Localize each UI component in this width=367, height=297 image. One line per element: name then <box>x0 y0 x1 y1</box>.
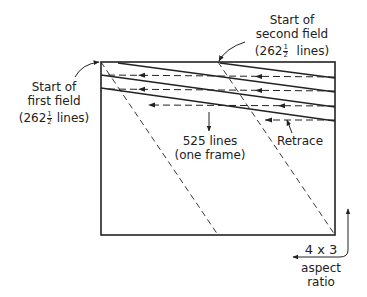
scan-line <box>101 88 335 121</box>
first-field-pointer <box>75 62 99 77</box>
retrace-pointer <box>287 120 292 133</box>
scan-line <box>118 63 335 92</box>
fraction-half: 12 <box>47 111 51 126</box>
second-field-count: (26212 lines) <box>252 44 332 59</box>
second-field-pointer <box>219 42 245 61</box>
frame-label: 525 lines (one frame) <box>172 134 248 162</box>
first-field-count: (26212 lines) <box>14 111 94 126</box>
aspect-ratio-label: aspect ratio <box>297 261 345 289</box>
aspect-ratio-value: 4 x 3 <box>297 243 345 257</box>
retrace-line <box>148 105 335 106</box>
second-field-label: Start of second field (26212 lines) <box>252 13 332 59</box>
fraction-half: 12 <box>283 44 287 59</box>
scan-line <box>220 63 335 78</box>
retrace-label: Retrace <box>275 134 325 148</box>
first-field-label: Start of first field (26212 lines) <box>14 80 94 126</box>
